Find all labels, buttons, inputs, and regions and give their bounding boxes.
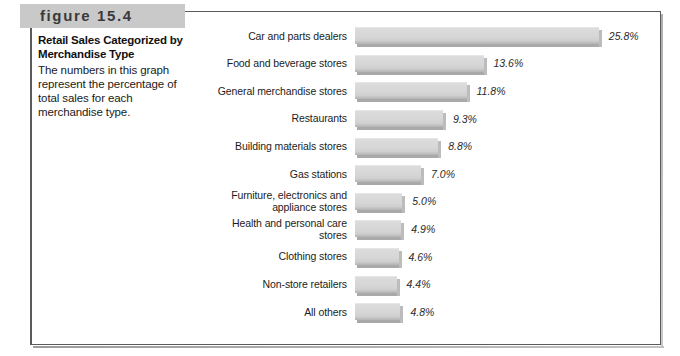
bar-value-label: 8.8% — [448, 140, 472, 152]
bar-chart-plot-area: Car and parts dealers25.8%Food and bever… — [195, 22, 655, 334]
bar-track: 5.0% — [355, 188, 655, 216]
chart-row: Non-store retailers4.4% — [195, 270, 655, 298]
bar — [355, 303, 400, 320]
bar-category-label: Car and parts dealers — [195, 30, 355, 42]
bar-value-label: 4.9% — [411, 223, 435, 235]
bar — [355, 55, 484, 72]
bar — [355, 27, 599, 44]
bar-track: 7.0% — [355, 160, 655, 188]
chart-row: Restaurants9.3% — [195, 105, 655, 133]
bar — [355, 110, 443, 127]
chart-row: Clothing stores4.6% — [195, 243, 655, 271]
bar-track: 4.9% — [355, 215, 655, 243]
chart-row: Health and personal carestores4.9% — [195, 215, 655, 243]
bar-value-label: 25.8% — [609, 30, 639, 42]
chart-row: Gas stations7.0% — [195, 160, 655, 188]
figure-container: figure 15.4 Retail Sales Categorized by … — [0, 0, 680, 356]
bar-track: 4.6% — [355, 243, 655, 271]
bar — [355, 165, 421, 182]
bar-category-label: Building materials stores — [195, 140, 355, 152]
bar-value-label: 5.0% — [412, 195, 436, 207]
bar-category-label: Food and beverage stores — [195, 57, 355, 69]
bar-category-label: Restaurants — [195, 112, 355, 124]
chart-row: Car and parts dealers25.8% — [195, 22, 655, 50]
figure-number-label: figure 15.4 — [40, 7, 133, 24]
bar-category-label: All others — [195, 306, 355, 318]
bar-track: 4.4% — [355, 270, 655, 298]
bar-value-label: 13.6% — [494, 57, 524, 69]
bar — [355, 193, 402, 210]
figure-frame-right-shadow — [661, 14, 663, 347]
bar-track: 4.8% — [355, 298, 655, 326]
bar-value-label: 4.4% — [407, 278, 431, 290]
bar-category-label: Furniture, electronics andappliance stor… — [195, 189, 355, 214]
bar — [355, 138, 438, 155]
chart-row: Furniture, electronics andappliance stor… — [195, 188, 655, 216]
figure-caption-description: The numbers in this graph represent the … — [38, 63, 186, 119]
chart-row: All others4.8% — [195, 298, 655, 326]
bar-value-label: 9.3% — [453, 113, 477, 125]
bar-value-label: 11.8% — [477, 85, 506, 97]
bar-value-label: 4.8% — [410, 306, 434, 318]
bar-category-label: General merchandise stores — [195, 85, 355, 97]
bar — [355, 82, 467, 99]
figure-frame-bottom-shadow — [33, 346, 664, 348]
figure-caption: Retail Sales Categorized by Merchandise … — [38, 34, 186, 119]
caption-column-divider — [31, 12, 32, 344]
figure-caption-title: Retail Sales Categorized by Merchandise … — [38, 34, 186, 61]
bar-track: 25.8% — [355, 22, 655, 50]
bar — [355, 276, 397, 293]
bar — [355, 220, 401, 237]
chart-row: General merchandise stores11.8% — [195, 77, 655, 105]
bar-category-label: Clothing stores — [195, 250, 355, 262]
chart-row: Food and beverage stores13.6% — [195, 50, 655, 78]
bar-track: 9.3% — [355, 105, 655, 133]
bar-track: 13.6% — [355, 50, 655, 78]
chart-row: Building materials stores8.8% — [195, 132, 655, 160]
bar-track: 8.8% — [355, 132, 655, 160]
bar-category-label: Health and personal carestores — [195, 217, 355, 242]
bar-category-label: Gas stations — [195, 168, 355, 180]
bar — [355, 248, 399, 265]
bar-track: 11.8% — [355, 77, 655, 105]
bar-category-label: Non-store retailers — [195, 278, 355, 290]
bar-value-label: 7.0% — [431, 168, 455, 180]
bar-value-label: 4.6% — [409, 251, 433, 263]
